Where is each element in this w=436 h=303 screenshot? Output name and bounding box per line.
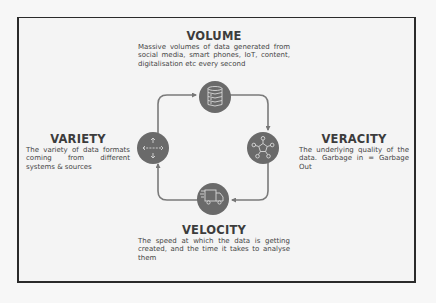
variety-node [137, 132, 169, 164]
volume-description: Massive volumes of data generated from s… [138, 43, 290, 68]
veracity-description: The underlying quality of the data. Garb… [299, 146, 409, 171]
connector-variety-to-volume [158, 95, 196, 133]
variety-description: The variety of data formats coming from … [26, 146, 130, 171]
connector-velocity-to-variety [158, 164, 198, 200]
variety-title: VARIETY [26, 133, 130, 146]
variety-block: VARIETY The variety of data formats comi… [26, 133, 130, 171]
volume-title: VOLUME [138, 30, 290, 43]
volume-node [199, 81, 231, 113]
veracity-block: VERACITY The underlying quality of the d… [299, 133, 409, 171]
veracity-title: VERACITY [299, 133, 409, 146]
connector-veracity-to-velocity [232, 163, 268, 200]
page: VOLUME Massive volumes of data generated… [0, 0, 436, 303]
velocity-description: The speed at which the data is getting c… [138, 237, 290, 262]
velocity-title: VELOCITY [138, 224, 290, 237]
veracity-node [247, 132, 279, 164]
velocity-node [197, 183, 229, 215]
velocity-block: VELOCITY The speed at which the data is … [138, 224, 290, 262]
volume-block: VOLUME Massive volumes of data generated… [138, 30, 290, 68]
connector-volume-to-veracity [230, 95, 268, 130]
